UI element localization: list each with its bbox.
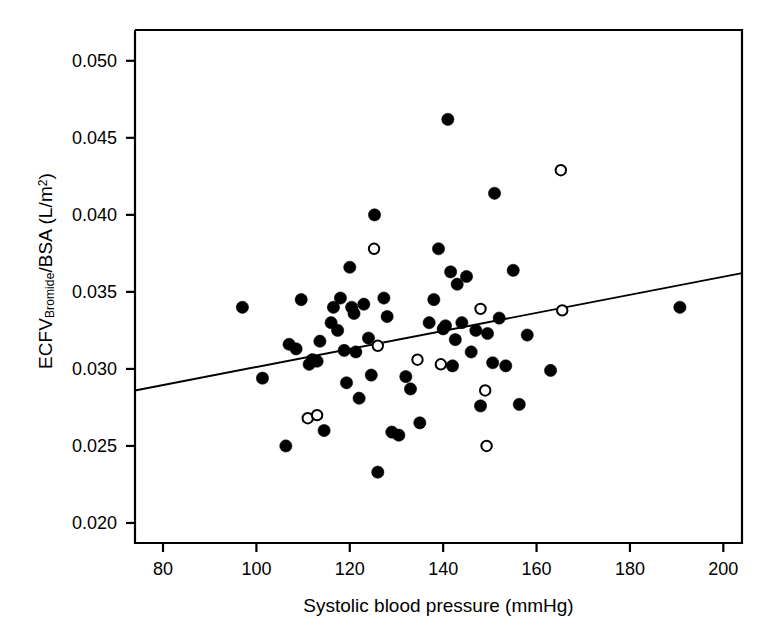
axis-frame: [135, 30, 742, 543]
data-point-filled: [500, 360, 512, 372]
x-axis-label: Systolic blood pressure (mmHg): [135, 595, 742, 617]
data-point-filled: [445, 266, 457, 278]
data-point-filled: [381, 310, 393, 322]
data-point-filled: [488, 187, 500, 199]
data-point-filled: [521, 329, 533, 341]
data-point-open: [369, 244, 379, 254]
data-point-filled: [350, 346, 362, 358]
data-point-filled: [456, 317, 468, 329]
tick-group: [126, 61, 723, 552]
y-axis-label-sub: Bromide: [43, 273, 57, 318]
data-point-filled: [470, 324, 482, 336]
data-point-open: [373, 341, 383, 351]
data-point-filled: [344, 261, 356, 273]
data-point-filled: [400, 371, 412, 383]
data-point-filled: [340, 377, 352, 389]
data-point-open: [480, 385, 490, 395]
data-point-filled: [311, 355, 323, 367]
data-point-filled: [365, 369, 377, 381]
plot-canvas: 801001201401601802000.0200.0250.0300.035…: [0, 0, 769, 642]
data-point-filled: [295, 293, 307, 305]
data-point-filled: [358, 298, 370, 310]
data-point-open: [481, 441, 491, 451]
data-point-filled: [372, 466, 384, 478]
data-point-open: [475, 304, 485, 314]
data-point-filled: [465, 346, 477, 358]
y-axis-label-main: ECFV: [35, 318, 56, 369]
data-point-filled: [442, 113, 454, 125]
data-point-open: [312, 410, 322, 420]
y-tick-label: 0.030: [72, 359, 117, 379]
data-point-filled: [318, 424, 330, 436]
x-tick-label: 180: [615, 559, 645, 579]
data-point-open: [436, 359, 446, 369]
data-point-filled: [423, 317, 435, 329]
data-point-filled: [280, 440, 292, 452]
data-point-filled: [481, 327, 493, 339]
x-tick-label: 80: [153, 559, 173, 579]
data-point-filled: [439, 320, 451, 332]
data-point-open: [556, 165, 566, 175]
data-point-filled: [513, 398, 525, 410]
data-point-open: [412, 354, 422, 364]
y-axis-label: ECFVBromide/BSA (L/m2): [35, 11, 57, 531]
data-point-filled: [507, 264, 519, 276]
x-tick-label: 120: [335, 559, 365, 579]
y-tick-label: 0.025: [72, 436, 117, 456]
y-tick-label: 0.040: [72, 205, 117, 225]
x-tick-label: 100: [241, 559, 271, 579]
y-tick-label: 0.020: [72, 513, 117, 533]
y-tick-label: 0.050: [72, 51, 117, 71]
data-point-filled: [353, 392, 365, 404]
data-point-filled: [348, 307, 360, 319]
axes-group: [135, 30, 742, 543]
x-tick-label: 140: [428, 559, 458, 579]
data-point-filled: [378, 292, 390, 304]
y-axis-label-sup: 2: [36, 179, 50, 186]
data-point-filled: [414, 417, 426, 429]
data-point-filled: [460, 270, 472, 282]
data-point-filled: [404, 383, 416, 395]
y-axis-label-end: ): [35, 173, 56, 179]
x-tick-label: 200: [708, 559, 738, 579]
data-point-filled: [432, 243, 444, 255]
data-point-filled: [474, 400, 486, 412]
data-point-filled: [487, 357, 499, 369]
data-marker-group: [236, 113, 686, 478]
data-point-filled: [334, 292, 346, 304]
y-tick-label: 0.035: [72, 282, 117, 302]
data-point-filled: [544, 364, 556, 376]
data-point-open: [557, 305, 567, 315]
y-tick-label: 0.045: [72, 128, 117, 148]
y-axis-label-mid: /BSA (L/m: [35, 186, 56, 272]
data-point-filled: [290, 343, 302, 355]
data-point-filled: [314, 335, 326, 347]
data-point-filled: [428, 293, 440, 305]
data-point-filled: [338, 344, 350, 356]
x-tick-label: 160: [522, 559, 552, 579]
data-point-filled: [256, 372, 268, 384]
tick-label-group: 801001201401601802000.0200.0250.0300.035…: [72, 51, 738, 579]
figure-scatter-plot: 801001201401601802000.0200.0250.0300.035…: [0, 0, 769, 642]
data-point-filled: [493, 312, 505, 324]
data-point-filled: [368, 209, 380, 221]
data-point-filled: [332, 324, 344, 336]
data-point-filled: [449, 334, 461, 346]
data-point-filled: [393, 429, 405, 441]
data-point-filled: [236, 301, 248, 313]
data-point-filled: [674, 301, 686, 313]
data-point-filled: [446, 360, 458, 372]
